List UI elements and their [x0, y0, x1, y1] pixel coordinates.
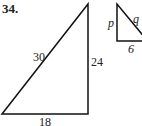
small-hypotenuse-label: q [133, 13, 139, 25]
large-vertical-leg-label: 24 [91, 56, 103, 68]
small-horizontal-leg-label: 6 [128, 43, 134, 55]
large-triangle [2, 4, 88, 114]
small-vertical-leg-label: p [108, 17, 114, 29]
triangles-figure [0, 0, 142, 126]
large-horizontal-leg-label: 18 [39, 116, 51, 126]
large-hypotenuse-label: 30 [33, 51, 45, 63]
